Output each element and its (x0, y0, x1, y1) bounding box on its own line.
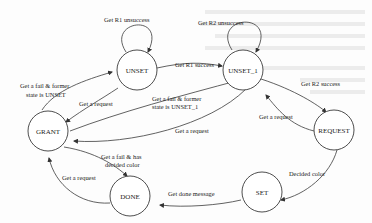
label-done-to-grant: Get a request (62, 174, 96, 181)
state-done: DONE (110, 176, 150, 216)
label-r2-success: Get R2 success (301, 80, 341, 87)
state-label: GRANT (36, 128, 61, 136)
label-grant-unset-1: Get a fail & former (20, 82, 70, 89)
label-r1-success: Get R1 success (175, 61, 215, 68)
state-label: DONE (120, 193, 139, 201)
label-unset1-self: Get R2 unsuccess (198, 19, 244, 26)
label-grant-unset-2: state is UNSET (26, 91, 66, 98)
state-unset-1: UNSET_1 (223, 50, 263, 90)
state-label: UNSET_1 (228, 67, 258, 75)
edge-unset-self (122, 25, 152, 52)
label-decided-color: Decided color (289, 170, 326, 177)
label-grant-unset1-1: Get a fail & former (152, 95, 202, 102)
label-done-message: Get done message (168, 190, 215, 197)
label-grant-done-2: decided color (105, 161, 140, 168)
state-label: SET (256, 189, 269, 197)
edge-set-to-done (160, 200, 241, 206)
state-label: UNSET (126, 67, 149, 75)
diagram-svg: UNSET UNSET_1 GRANT REQUEST SET DONE Get… (0, 0, 372, 223)
label-unset-to-grant: Get a request (79, 100, 113, 107)
edge-labels: Get R1 unsuccess Get R2 unsuccess Get R1… (20, 16, 341, 197)
state-set: SET (242, 172, 282, 212)
state-grant: GRANT (28, 111, 68, 151)
label-grant-done-1: Get a fail & has (101, 153, 142, 160)
label-grant-unset1-2: state is UNSET_1 (152, 103, 198, 110)
state-request: REQUEST (314, 110, 354, 150)
label-request-to-unset1: Get a request (259, 113, 293, 120)
state-unset: UNSET (117, 50, 157, 90)
state-label: REQUEST (318, 127, 350, 135)
label-unset-self: Get R1 unsuccess (104, 16, 150, 23)
label-unset1-to-grant: Get a request (175, 127, 209, 134)
state-diagram: UNSET UNSET_1 GRANT REQUEST SET DONE Get… (0, 0, 372, 223)
